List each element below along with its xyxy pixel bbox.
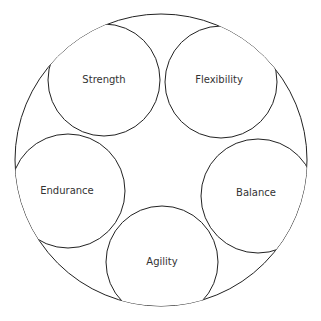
node-label-balance: Balance xyxy=(236,187,276,198)
node-label-flexibility: Flexibility xyxy=(195,74,243,85)
node-label-endurance: Endurance xyxy=(40,185,94,196)
node-label-agility: Agility xyxy=(146,256,177,267)
fitness-components-diagram: Strength Flexibility Endurance Balance A… xyxy=(0,0,321,321)
node-label-strength: Strength xyxy=(82,74,125,85)
